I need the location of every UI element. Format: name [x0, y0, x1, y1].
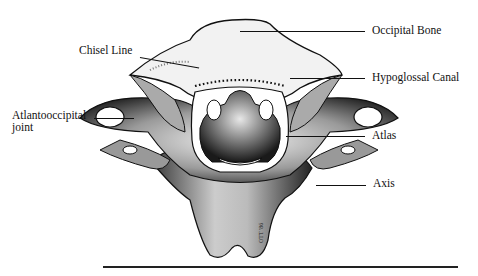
label-occipital-bone: Occipital Bone — [372, 24, 441, 36]
vertebral-canal — [191, 87, 288, 172]
label-chisel-line: Chisel Line — [79, 44, 132, 56]
anatomical-illustration — [0, 0, 478, 276]
label-atlantooccipital-line1: Atlantooccipital — [12, 109, 86, 121]
label-atlas: Atlas — [372, 129, 396, 141]
artist-signature: OTT '86 — [258, 223, 264, 243]
leader-atlantooccipital-joint — [94, 118, 134, 119]
leader-axis — [316, 185, 366, 186]
leader-atlas — [286, 136, 365, 137]
label-hypoglossal-canal: Hypoglossal Canal — [372, 71, 459, 83]
bottom-rule — [103, 266, 458, 268]
label-atlantooccipital-line2: joint — [12, 121, 86, 133]
label-atlantooccipital-joint: Atlantooccipital joint — [12, 109, 86, 133]
leader-occipital-bone — [240, 31, 365, 32]
label-axis: Axis — [373, 177, 395, 189]
leader-hypoglossal-canal — [290, 78, 365, 79]
